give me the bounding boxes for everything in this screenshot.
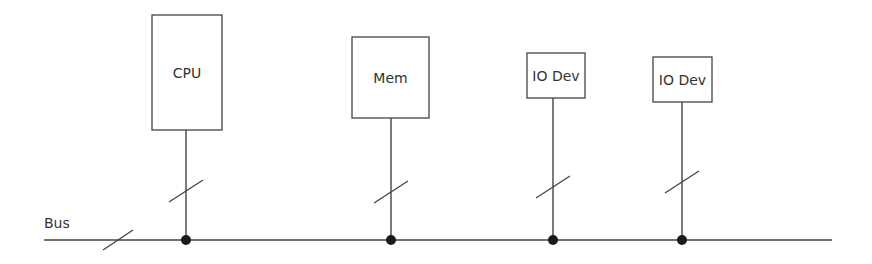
bus-label: Bus bbox=[44, 215, 70, 231]
component-io-dev-2: IO Dev bbox=[653, 57, 712, 245]
io-dev-1-label: IO Dev bbox=[532, 68, 579, 84]
cpu-junction-dot bbox=[181, 235, 191, 245]
mem-label: Mem bbox=[373, 70, 407, 86]
bus-diagram: Bus CPU Mem IO Dev IO Dev bbox=[0, 0, 872, 264]
io-dev-2-label: IO Dev bbox=[659, 72, 706, 88]
component-cpu: CPU bbox=[152, 15, 222, 245]
cpu-label: CPU bbox=[173, 65, 201, 81]
component-mem: Mem bbox=[352, 37, 429, 245]
io-dev-2-junction-dot bbox=[677, 235, 687, 245]
mem-junction-dot bbox=[386, 235, 396, 245]
component-io-dev-1: IO Dev bbox=[527, 53, 585, 245]
io-dev-1-junction-dot bbox=[548, 235, 558, 245]
